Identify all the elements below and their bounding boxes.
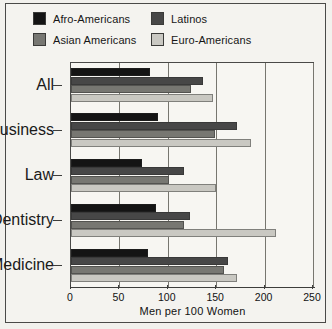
- bar-business-euro-americans: [71, 139, 251, 147]
- y-axis-label-medicine: Medicine: [0, 259, 54, 271]
- bar-law-euro-americans: [71, 184, 216, 192]
- x-axis-tick-mark-250: [312, 285, 313, 289]
- bar-medicine-latinos: [71, 257, 228, 265]
- bar-group-medicine: [71, 248, 313, 285]
- y-axis-tick-dentistry: [53, 220, 62, 221]
- x-axis-tick-label-0: 0: [67, 291, 73, 303]
- bar-dentistry-latinos: [71, 212, 190, 220]
- chart-legend: Afro-Americans Latinos Asian Americans E…: [33, 8, 283, 50]
- x-axis-line: [70, 287, 315, 288]
- y-axis-tick-business: [53, 130, 62, 131]
- legend-label-euro-americans: Euro-Americans: [171, 34, 251, 46]
- y-axis-label-business: Business: [0, 124, 54, 136]
- bar-business-afro-americans: [71, 113, 158, 121]
- y-axis-label-all: All: [36, 79, 54, 91]
- legend-label-afro-americans: Afro-Americans: [53, 13, 130, 25]
- y-axis-tick-medicine: [53, 265, 62, 266]
- x-axis-tick-label-50: 50: [113, 291, 125, 303]
- y-axis-tick-all: [53, 85, 62, 86]
- bar-medicine-asian-americans: [71, 266, 224, 274]
- x-axis-tick-label-250: 250: [303, 291, 321, 303]
- legend-swatch-asian-americans: [33, 33, 46, 46]
- bar-dentistry-euro-americans: [71, 229, 276, 237]
- y-axis-labels: AllBusinessLawDentistryMedicine: [0, 62, 62, 288]
- bar-dentistry-afro-americans: [71, 204, 156, 212]
- bar-medicine-euro-americans: [71, 274, 237, 282]
- plot-area: [70, 62, 314, 288]
- gridline-250: [313, 63, 314, 288]
- y-axis-label-law: Law: [25, 169, 54, 181]
- bar-all-asian-americans: [71, 85, 191, 93]
- bar-law-afro-americans: [71, 159, 142, 167]
- chart-figure: Afro-Americans Latinos Asian Americans E…: [0, 0, 332, 329]
- y-axis-tick-law: [53, 175, 62, 176]
- x-axis-tick-mark-100: [167, 285, 168, 289]
- bar-law-asian-americans: [71, 176, 169, 184]
- x-axis-tick-mark-200: [264, 285, 265, 289]
- legend-swatch-euro-americans: [151, 33, 164, 46]
- legend-item-latinos: Latinos: [151, 8, 269, 29]
- legend-item-afro-americans: Afro-Americans: [33, 8, 151, 29]
- legend-swatch-afro-americans: [33, 12, 46, 25]
- x-axis-tick-label-200: 200: [255, 291, 273, 303]
- bar-law-latinos: [71, 167, 184, 175]
- legend-label-latinos: Latinos: [171, 13, 207, 25]
- x-axis-title: Men per 100 Women: [70, 305, 315, 317]
- bar-all-afro-americans: [71, 68, 150, 76]
- x-axis-tick-label-150: 150: [206, 291, 224, 303]
- bar-all-euro-americans: [71, 94, 213, 102]
- bar-groups: [71, 63, 313, 288]
- legend-item-asian-americans: Asian Americans: [33, 29, 151, 50]
- legend-item-euro-americans: Euro-Americans: [151, 29, 269, 50]
- legend-swatch-latinos: [151, 12, 164, 25]
- bar-medicine-afro-americans: [71, 249, 148, 257]
- bar-group-business: [71, 112, 313, 149]
- x-axis-tick-mark-150: [215, 285, 216, 289]
- y-axis-label-dentistry: Dentistry: [0, 214, 54, 226]
- bar-business-asian-americans: [71, 130, 215, 138]
- x-axis-tick-mark-50: [118, 285, 119, 289]
- x-axis-tick-label-100: 100: [158, 291, 176, 303]
- bar-business-latinos: [71, 122, 237, 130]
- bar-group-law: [71, 158, 313, 195]
- legend-label-asian-americans: Asian Americans: [53, 34, 136, 46]
- bar-dentistry-asian-americans: [71, 221, 184, 229]
- bar-group-all: [71, 67, 313, 104]
- bar-all-latinos: [71, 77, 203, 85]
- bar-group-dentistry: [71, 203, 313, 240]
- x-axis-tick-mark-0: [70, 285, 71, 289]
